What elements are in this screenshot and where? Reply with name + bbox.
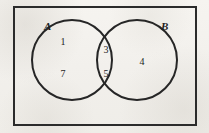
venn-diagram-figure: A B 1 7 3 5 4 xyxy=(0,0,209,133)
region-value-intersection-bottom: 5 xyxy=(99,69,113,79)
set-label-a: A xyxy=(44,21,51,32)
region-value-intersection-top: 3 xyxy=(99,45,113,55)
region-value-b-only: 4 xyxy=(135,57,149,67)
region-value-a-only-bottom: 7 xyxy=(56,69,70,79)
set-label-b: B xyxy=(161,21,168,32)
region-value-a-only-top: 1 xyxy=(56,37,70,47)
